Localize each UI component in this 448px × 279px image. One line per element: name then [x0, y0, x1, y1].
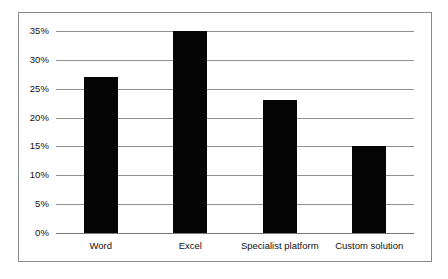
- x-axis-category-labels: WordExcelSpecialist platformCustom solut…: [56, 235, 414, 261]
- chart-border-frame: 0%5%10%15%20%25%30%35% WordExcelSpeciali…: [18, 12, 432, 262]
- x-axis-category-label: Word: [89, 241, 112, 251]
- axis-baseline: [56, 233, 414, 234]
- y-axis-tick-label: 10%: [30, 171, 49, 181]
- x-axis-category-label: Excel: [179, 241, 202, 251]
- y-axis-tick-label: 25%: [30, 84, 49, 94]
- y-axis-tick-label: 30%: [30, 55, 49, 65]
- bar: [84, 77, 118, 233]
- bar-chart-figure: 0%5%10%15%20%25%30%35% WordExcelSpeciali…: [0, 0, 448, 279]
- y-axis-tick-label: 15%: [30, 142, 49, 152]
- y-axis-tick-label: 5%: [35, 199, 49, 209]
- bar: [352, 146, 386, 233]
- bar: [173, 31, 207, 233]
- y-axis-tick-label: 35%: [30, 26, 49, 36]
- y-axis-tick-label: 20%: [30, 113, 49, 123]
- x-axis-category-label: Specialist platform: [241, 241, 319, 251]
- y-axis-tick-label: 0%: [35, 228, 49, 238]
- plot-area: 0%5%10%15%20%25%30%35%: [56, 31, 414, 233]
- bars-group: [56, 31, 414, 233]
- x-axis-category-label: Custom solution: [335, 241, 403, 251]
- bar: [263, 100, 297, 233]
